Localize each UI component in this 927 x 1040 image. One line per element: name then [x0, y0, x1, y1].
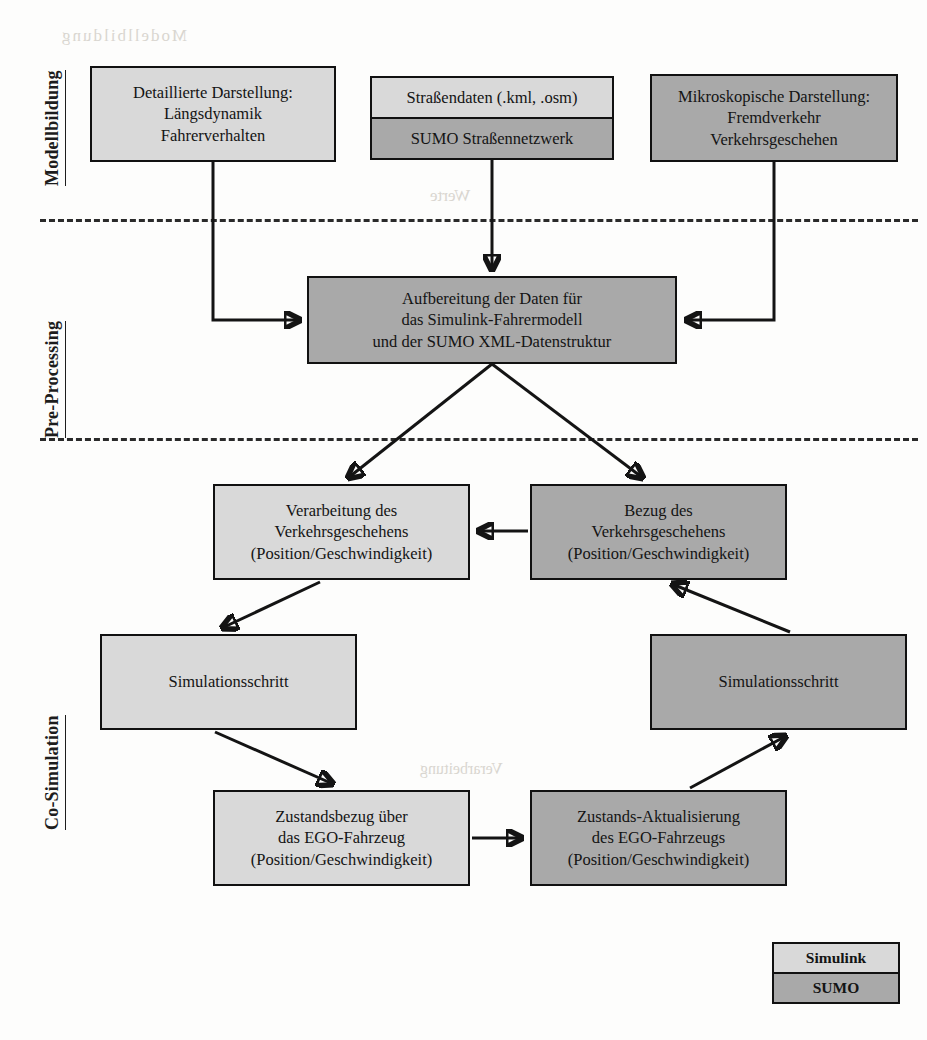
box-zustandsbezug-ego[interactable]: Zustandsbezug über das EGO-Fahrzeug (Pos… [213, 790, 470, 886]
legend-item-simulink: Simulink [774, 944, 898, 974]
box-bezug-verkehrsgeschehens[interactable]: Bezug des Verkehrsgeschehens (Position/G… [530, 484, 787, 580]
arrow-aufbereitung-to-verarbeitung [348, 364, 492, 478]
box-line: (Position/Geschwindigkeit) [251, 849, 432, 870]
box-line: (Position/Geschwindigkeit) [251, 543, 432, 564]
box-line: (Position/Geschwindigkeit) [568, 543, 749, 564]
arrow-mikroskopische-to-aufbereitung [686, 162, 774, 320]
box-line: Verkehrsgeschehens [275, 521, 409, 542]
arrow-verarbeitung-to-simulationsschritt-simulink [222, 582, 320, 628]
section-label-co-simulation: Co-Simulation [42, 715, 66, 830]
box-strassendaten-top: Straßendaten (.kml, .osm) [372, 78, 612, 119]
box-line: und der SUMO XML-Datenstruktur [373, 331, 612, 352]
box-line: Längsdynamik [164, 103, 262, 124]
legend-item-sumo: SUMO [774, 974, 898, 1002]
scan-bleed-artifact: Modellbildung [60, 26, 187, 46]
section-divider-1 [40, 219, 918, 222]
scan-bleed-artifact: Werte [430, 186, 470, 206]
box-line: des EGO-Fahrzeugs [592, 827, 725, 848]
legend: Simulink SUMO [772, 942, 900, 1004]
box-line: (Position/Geschwindigkeit) [568, 849, 749, 870]
box-mikroskopische-darstellung[interactable]: Mikroskopische Darstellung: Fremdverkehr… [650, 74, 898, 162]
box-line: Verarbeitung des [286, 500, 397, 521]
box-zustands-aktualisierung-ego[interactable]: Zustands-Aktualisierung des EGO-Fahrzeug… [530, 790, 787, 886]
box-line: Mikroskopische Darstellung: [678, 86, 870, 107]
box-detaillierte-darstellung[interactable]: Detaillierte Darstellung: Längsdynamik F… [90, 66, 336, 162]
box-line: Zustandsbezug über [275, 806, 407, 827]
box-line: Detaillierte Darstellung: [133, 82, 293, 103]
arrow-simulationsschritt-simulink-to-zustandsbezug [215, 732, 333, 784]
section-label-pre-processing: Pre-Processing [42, 321, 66, 438]
box-line: das Simulink-Fahrermodell [401, 309, 582, 330]
box-simulationsschritt-simulink[interactable]: Simulationsschritt [100, 634, 357, 730]
box-line: Verkehrsgeschehens [592, 521, 726, 542]
box-line: Fahrerverhalten [161, 125, 265, 146]
box-line: Fremdverkehr [727, 107, 820, 128]
box-strassendaten[interactable]: Straßendaten (.kml, .osm) SUMO Straßenne… [370, 76, 614, 160]
box-strassendaten-bottom: SUMO Straßennetzwerk [372, 119, 612, 158]
box-line: Verkehrsgeschehen [710, 129, 837, 150]
scan-bleed-artifact: Verarbeitung [420, 760, 503, 778]
box-line: Simulationsschritt [718, 671, 838, 692]
arrow-aktualisierung-to-simulationsschritt-sumo [690, 736, 786, 788]
box-simulationsschritt-sumo[interactable]: Simulationsschritt [650, 634, 907, 730]
arrow-aufbereitung-to-bezug [492, 364, 643, 478]
diagram-canvas: Modellbildung Werte Typ Energie Ausgabe … [0, 0, 927, 1040]
box-line: das EGO-Fahrzeug [278, 827, 405, 848]
box-line: Zustands-Aktualisierung [577, 806, 740, 827]
section-label-modellbildung: Modellbildung [42, 70, 66, 186]
box-aufbereitung-der-daten[interactable]: Aufbereitung der Daten für das Simulink-… [307, 276, 677, 364]
box-verarbeitung-verkehrsgeschehens[interactable]: Verarbeitung des Verkehrsgeschehens (Pos… [213, 484, 470, 580]
box-line: Aufbereitung der Daten für [402, 288, 582, 309]
box-line: Simulationsschritt [168, 671, 288, 692]
section-divider-2 [40, 438, 918, 441]
box-line: Bezug des [624, 500, 692, 521]
arrow-simulationsschritt-sumo-to-bezug [672, 584, 790, 632]
arrow-detaillierte-to-aufbereitung [213, 162, 300, 320]
